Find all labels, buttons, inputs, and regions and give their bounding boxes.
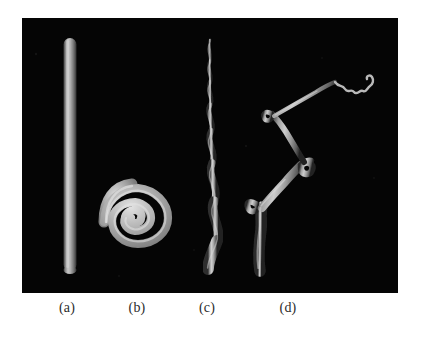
branch-mid-highlight xyxy=(261,180,285,207)
object-wavy-filament xyxy=(208,40,219,269)
rod-specular-highlight xyxy=(66,40,69,268)
branch-upper-left-leg xyxy=(272,114,304,162)
rod-bottom-cap xyxy=(64,266,77,274)
caption-b: (b) xyxy=(129,300,146,316)
branch-zigzag-tip xyxy=(335,76,373,94)
caption-a: (a) xyxy=(59,300,75,316)
rod-body xyxy=(64,38,77,271)
caption-c: (c) xyxy=(199,300,215,316)
branch-small-loop xyxy=(263,112,272,120)
object-branched-filament xyxy=(247,76,373,271)
render-panel xyxy=(22,18,398,293)
object-straight-rod xyxy=(64,38,77,274)
branch-left-stub xyxy=(247,202,258,211)
figure-container: (a) (b) (c) (d) xyxy=(0,0,422,346)
object-spiral-coil xyxy=(104,184,168,244)
render-canvas xyxy=(22,18,398,293)
caption-d: (d) xyxy=(280,300,297,316)
branch-arm-highlight xyxy=(275,91,317,115)
caption-row: (a) (b) (c) (d) xyxy=(0,300,422,330)
branch-mid xyxy=(262,165,301,208)
